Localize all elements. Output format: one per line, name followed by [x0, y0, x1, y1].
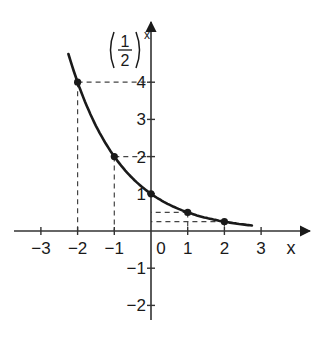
y-tick-label: −2 — [127, 296, 146, 315]
y-tick-label: 1 — [137, 185, 146, 204]
fraction-denominator: 2 — [121, 52, 130, 69]
y-tick-label: −1 — [127, 259, 146, 278]
exponential-function-graph: −3−2−10123x4321−1−2 12x — [0, 0, 324, 338]
curve-path — [68, 54, 252, 226]
x-tick-label: 1 — [183, 239, 192, 258]
x-tick-label: −2 — [68, 239, 87, 258]
y-tick-label: 4 — [137, 73, 146, 92]
x-tick-label: 2 — [220, 239, 229, 258]
data-point — [147, 190, 154, 197]
data-point — [184, 209, 191, 216]
function-curve — [68, 54, 252, 226]
data-point — [74, 79, 81, 86]
fraction-numerator: 1 — [121, 33, 130, 50]
left-paren — [111, 32, 115, 68]
data-point — [111, 153, 118, 160]
y-tick-label: 2 — [137, 148, 146, 167]
x-tick-label: 3 — [256, 239, 265, 258]
tick-labels: −3−2−10123x4321−1−2 — [31, 73, 295, 315]
y-tick-label: 3 — [137, 110, 146, 129]
exponent: x — [144, 28, 150, 42]
x-tick-label: 0 — [156, 239, 165, 258]
data-point — [221, 218, 228, 225]
axes — [14, 22, 310, 320]
x-axis-label: x — [287, 238, 296, 258]
function-label: 12x — [111, 28, 151, 69]
x-tick-label: −3 — [31, 239, 50, 258]
right-paren — [136, 32, 140, 68]
x-tick-label: −1 — [105, 239, 124, 258]
